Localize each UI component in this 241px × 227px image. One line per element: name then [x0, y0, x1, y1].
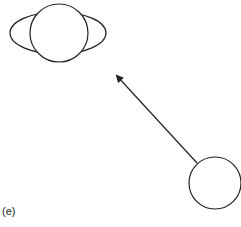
diagram-canvas [0, 0, 241, 227]
source-circle [189, 157, 241, 209]
direction-arrow [117, 76, 197, 163]
head-circle [30, 4, 88, 62]
panel-label: (e) [2, 205, 15, 217]
head-top-view [10, 4, 106, 62]
